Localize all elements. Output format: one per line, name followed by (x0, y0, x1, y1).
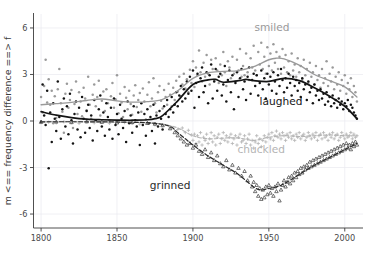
data-point (204, 76, 207, 79)
data-point (281, 48, 284, 51)
data-point (201, 66, 204, 69)
data-point (279, 188, 282, 191)
data-point (238, 132, 241, 135)
x-tick-label: 1900 (183, 233, 204, 243)
data-point (72, 142, 75, 145)
data-point (117, 133, 120, 136)
data-point (192, 69, 195, 72)
data-point (307, 80, 310, 83)
data-point (247, 132, 250, 135)
series-label-chuckled: chuckled (238, 143, 285, 155)
data-point (119, 103, 122, 106)
data-point (152, 77, 155, 80)
data-point (101, 100, 104, 103)
data-point (99, 94, 102, 97)
data-point (331, 131, 334, 134)
data-point (287, 72, 290, 75)
data-point (125, 141, 128, 144)
data-point (329, 136, 332, 139)
data-point (155, 111, 158, 114)
data-point (178, 76, 181, 79)
data-point (219, 63, 222, 66)
data-point (263, 77, 266, 80)
data-point (140, 110, 143, 113)
data-point (142, 87, 145, 90)
data-point (257, 51, 260, 54)
data-point (192, 60, 195, 63)
data-point (205, 132, 208, 135)
data-point (197, 140, 200, 143)
data-point (139, 92, 142, 95)
data-point (324, 103, 327, 106)
data-point (222, 51, 225, 54)
data-point (199, 71, 202, 74)
data-point (158, 110, 161, 113)
data-point (175, 79, 178, 82)
data-point (356, 100, 359, 103)
trend-line-laughed (41, 78, 357, 120)
data-point (148, 81, 151, 84)
data-point (213, 80, 216, 83)
data-point (91, 93, 94, 96)
data-point (107, 116, 110, 119)
data-point (253, 190, 256, 193)
series-label-laughed: laughed (260, 95, 303, 107)
data-point (222, 131, 225, 134)
data-point (221, 94, 224, 97)
data-point (218, 76, 221, 79)
data-point (234, 82, 237, 85)
data-point (208, 74, 211, 77)
data-point (55, 130, 58, 133)
data-point (73, 103, 76, 106)
data-point (246, 71, 249, 74)
data-point (137, 99, 140, 102)
data-point (85, 110, 88, 113)
data-point (64, 125, 67, 128)
data-point (326, 139, 329, 142)
data-point (289, 82, 292, 85)
data-point (183, 72, 186, 75)
data-point (129, 103, 132, 106)
data-point (57, 80, 60, 83)
data-point (296, 57, 299, 60)
data-point (350, 103, 353, 106)
data-point (114, 124, 117, 127)
data-point (126, 108, 129, 111)
data-point (272, 194, 275, 197)
data-point (101, 125, 104, 128)
data-point (136, 106, 139, 109)
data-point (293, 85, 296, 88)
data-point (296, 90, 299, 93)
data-point (321, 97, 324, 100)
data-point (242, 65, 245, 68)
data-point (267, 132, 270, 135)
data-point (204, 85, 207, 88)
data-point (231, 74, 234, 77)
data-point (70, 89, 73, 92)
data-point (354, 91, 357, 94)
y-tick-label: -3 (19, 163, 27, 173)
data-point (79, 136, 82, 139)
data-point (225, 85, 228, 88)
data-point (227, 60, 230, 63)
data-point (322, 82, 325, 85)
data-point (254, 69, 257, 72)
data-point (166, 103, 169, 106)
axes (34, 13, 364, 228)
data-point (189, 69, 192, 72)
data-point (57, 88, 60, 91)
data-point (254, 85, 257, 88)
data-point (105, 102, 108, 105)
y-tick-label: 6 (22, 23, 27, 33)
data-point (292, 69, 295, 72)
y-tick-label: 3 (22, 69, 27, 79)
data-point (325, 60, 328, 63)
data-point (58, 68, 61, 71)
data-point (307, 131, 310, 134)
data-point (146, 93, 149, 96)
data-point (315, 65, 318, 68)
data-point (328, 72, 331, 75)
data-point (298, 131, 301, 134)
data-point (282, 179, 285, 182)
data-point (47, 78, 50, 81)
